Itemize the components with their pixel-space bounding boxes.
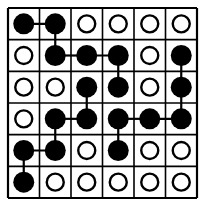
filled-dot[interactable] [108, 140, 129, 161]
filled-dot[interactable] [171, 108, 192, 129]
puzzle-board [0, 0, 209, 211]
filled-dot[interactable] [45, 45, 66, 66]
filled-dot[interactable] [76, 77, 97, 98]
empty-circle[interactable] [141, 174, 158, 191]
empty-circle[interactable] [141, 47, 158, 64]
grid-lines [8, 8, 197, 198]
filled-dot[interactable] [13, 172, 34, 193]
filled-dot[interactable] [13, 140, 34, 161]
empty-circle[interactable] [15, 110, 32, 127]
empty-circle[interactable] [15, 47, 32, 64]
empty-circle[interactable] [78, 174, 95, 191]
filled-dot[interactable] [76, 108, 97, 129]
empty-circle[interactable] [141, 142, 158, 159]
empty-circle[interactable] [173, 174, 190, 191]
empty-circle[interactable] [47, 174, 64, 191]
filled-dot[interactable] [171, 45, 192, 66]
filled-dot[interactable] [171, 77, 192, 98]
empty-circle[interactable] [141, 15, 158, 32]
empty-circle[interactable] [15, 79, 32, 96]
filled-dot[interactable] [108, 45, 129, 66]
empty-circle[interactable] [110, 15, 127, 32]
filled-dot[interactable] [45, 140, 66, 161]
filled-dot[interactable] [45, 13, 66, 34]
filled-dot[interactable] [13, 13, 34, 34]
filled-dot[interactable] [139, 108, 160, 129]
filled-dot[interactable] [76, 45, 97, 66]
empty-circle[interactable] [173, 142, 190, 159]
empty-circle[interactable] [78, 142, 95, 159]
filled-dot[interactable] [108, 108, 129, 129]
empty-circle[interactable] [141, 79, 158, 96]
filled-dot[interactable] [45, 108, 66, 129]
empty-circle[interactable] [110, 174, 127, 191]
empty-circle[interactable] [173, 15, 190, 32]
empty-circle[interactable] [78, 15, 95, 32]
filled-dot[interactable] [108, 77, 129, 98]
empty-circle[interactable] [47, 79, 64, 96]
